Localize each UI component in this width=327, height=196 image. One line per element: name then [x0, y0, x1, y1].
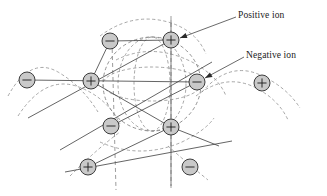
- ionic-lattice-figure: Positive ion Negative ion: [0, 0, 327, 196]
- bond-cell-top: [110, 40, 171, 41]
- ion-neg-lower-left: [103, 118, 119, 134]
- ion-nodes: [19, 32, 270, 175]
- leader-arrowhead-negative-ion: [205, 72, 212, 78]
- bond-left-rail: [27, 80, 197, 82]
- lattice-canvas: [0, 0, 327, 196]
- leader-line-positive-ion: [180, 17, 236, 38]
- leader-arrowhead-positive-ion: [180, 33, 187, 38]
- arc-left-lower: [18, 84, 120, 124]
- bond-cell-diag-b: [111, 82, 197, 126]
- callout-leader-lines: [180, 17, 244, 78]
- dashed-ellipse-vertical-a: [134, 37, 170, 131]
- arc-right-outer: [202, 71, 300, 108]
- ion-pos-top-center: [163, 32, 179, 48]
- ion-neg-mid-right: [189, 74, 205, 90]
- ion-pos-center: [163, 119, 179, 135]
- arc-right-lower: [196, 82, 288, 120]
- ion-pos-far-right: [254, 75, 270, 91]
- ion-pos-bottom-left: [80, 159, 96, 175]
- label-positive-ion: Positive ion: [238, 10, 284, 20]
- ion-neg-far-left: [19, 72, 35, 88]
- bond-lower-diag-left: [60, 62, 212, 150]
- label-negative-ion: Negative ion: [246, 50, 296, 60]
- bond-cell-diag-a: [91, 81, 171, 127]
- ion-neg-top-left: [102, 33, 118, 49]
- dash-vert-left: [112, 42, 116, 190]
- ion-pos-mid-left: [83, 73, 99, 89]
- bond-center-to-bl: [88, 127, 171, 167]
- ion-neg-bottom-right: [182, 159, 198, 175]
